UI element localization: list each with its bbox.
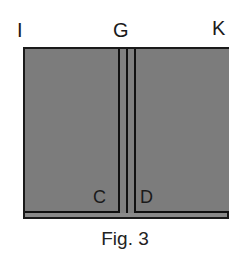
bottom-strip (25, 213, 227, 217)
figure-caption: Fig. 3 (0, 228, 250, 250)
center-divider-line (126, 49, 128, 217)
outer-frame (23, 47, 229, 219)
label-d: D (140, 187, 153, 207)
label-g: G (113, 20, 129, 40)
label-k: K (212, 18, 225, 38)
label-i: I (17, 20, 23, 40)
label-c: C (93, 187, 106, 207)
